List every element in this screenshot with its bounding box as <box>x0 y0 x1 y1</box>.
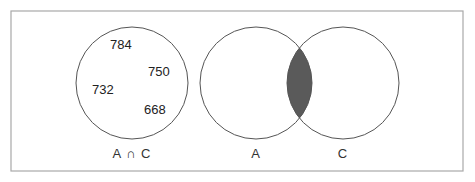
value-668: 668 <box>144 102 166 117</box>
value-750: 750 <box>148 64 170 79</box>
set-a-label: A <box>251 146 261 161</box>
set-c-label: C <box>338 146 348 161</box>
intersection-label: A ∩ C <box>113 146 152 161</box>
diagram-frame <box>11 11 463 171</box>
value-784: 784 <box>110 37 132 52</box>
value-732: 732 <box>92 82 114 97</box>
venn-diagram: 784 750 732 668 A ∩ C A C <box>0 0 475 182</box>
